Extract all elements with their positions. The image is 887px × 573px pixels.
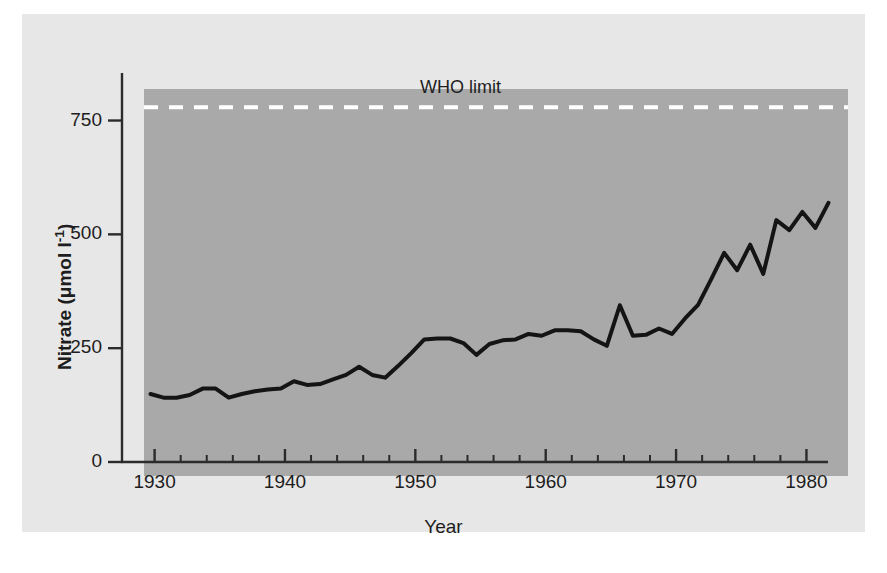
x-tick-label: 1980 [766,471,846,493]
who-limit-label: WHO limit [420,77,501,98]
plot-canvas [144,89,848,476]
x-tick-label: 1970 [636,471,716,493]
y-axis-title-text: Nitrate ( [54,298,75,370]
figure-panel: WHO limit [22,14,865,532]
nitrate-series-line [151,203,829,398]
x-tick-label: 1930 [115,471,195,493]
y-axis-title-close: ) [54,224,75,230]
figure-container: WHO limit 0250500750 1930194019501960197… [0,0,887,573]
x-axis-title: Year [0,516,887,538]
x-tick-label: 1960 [506,471,586,493]
y-tick-label: 750 [40,109,102,131]
plot-area [144,89,848,476]
y-axis-title: Nitrate (μmol l-1) [52,224,76,370]
x-tick-label: 1950 [375,471,455,493]
y-axis-title-exponent: -1 [52,230,67,242]
y-tick-label: 0 [40,450,102,472]
y-axis-title-unit: μmol l [54,242,75,298]
x-tick-label: 1940 [245,471,325,493]
